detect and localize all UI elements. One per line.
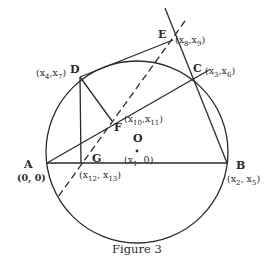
label-B: B xyxy=(236,159,245,172)
geometry-figure: (x4,x7) D E (x8,x9) C (x3,x6) F (x10,x11… xyxy=(0,0,273,264)
figure-caption: Figure 3 xyxy=(112,242,162,256)
label-C: C xyxy=(193,62,202,75)
label-D: D xyxy=(70,63,80,76)
label-B-coord: (x2, x5) xyxy=(227,173,260,187)
label-O-coord: (x1, 0) xyxy=(124,154,153,168)
line-BCE xyxy=(165,8,227,163)
segment-DF xyxy=(80,77,112,121)
label-G-coord: (x12, x13) xyxy=(79,169,121,183)
label-G: G xyxy=(92,152,101,165)
label-A-coord: (0, 0) xyxy=(17,172,46,184)
label-F: F xyxy=(114,121,122,134)
dashed-line-EFG xyxy=(58,21,185,197)
label-D-coord: (x4,x7) xyxy=(36,67,66,81)
label-E: E xyxy=(158,28,166,41)
center-dot-O xyxy=(136,150,139,153)
segment-DG xyxy=(80,77,81,163)
label-F-coord: (x10,x11) xyxy=(124,113,163,127)
label-A: A xyxy=(23,158,33,171)
segment-DE xyxy=(80,40,173,77)
label-O: O xyxy=(133,132,143,145)
label-C-coord: (x3,x6) xyxy=(205,65,235,79)
